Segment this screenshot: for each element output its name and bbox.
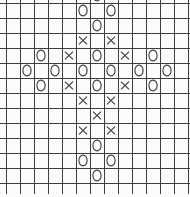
symbol-o <box>160 63 174 78</box>
grid-line-vertical <box>62 0 63 194</box>
symbol-x <box>118 78 132 93</box>
symbol-o <box>34 78 48 93</box>
symbol-o <box>90 168 104 183</box>
grid-line-horizontal <box>0 123 190 124</box>
grid-line-vertical <box>188 0 189 194</box>
symbol-x <box>104 33 118 48</box>
symbol-o <box>132 63 146 78</box>
symbol-o <box>146 78 160 93</box>
symbol-x <box>76 93 90 108</box>
symbol-o <box>20 63 34 78</box>
pattern-grid <box>0 0 190 197</box>
grid-line-horizontal <box>0 183 190 184</box>
symbol-o <box>90 18 104 33</box>
grid-line-horizontal <box>0 93 190 94</box>
symbol-o <box>90 48 104 63</box>
symbol-x <box>62 78 76 93</box>
grid-line-vertical <box>34 0 35 194</box>
symbol-o <box>90 78 104 93</box>
symbol-o <box>34 48 48 63</box>
symbol-o <box>90 0 104 3</box>
symbol-o <box>76 153 90 168</box>
symbol-x <box>62 48 76 63</box>
symbol-o <box>76 3 90 18</box>
symbol-x <box>104 93 118 108</box>
grid-line-vertical <box>20 0 21 194</box>
symbol-o <box>146 48 160 63</box>
symbol-x <box>104 123 118 138</box>
grid-line-vertical <box>132 0 133 194</box>
symbol-o <box>90 138 104 153</box>
grid-line-horizontal <box>0 3 190 4</box>
grid-line-horizontal <box>0 153 190 154</box>
symbol-x <box>118 48 132 63</box>
grid-line-horizontal <box>0 33 190 34</box>
symbol-o <box>76 63 90 78</box>
grid-line-vertical <box>160 0 161 194</box>
grid-line-vertical <box>118 0 119 194</box>
symbol-x <box>90 108 104 123</box>
grid-line-vertical <box>6 0 7 194</box>
symbol-x <box>76 123 90 138</box>
grid-line-vertical <box>174 0 175 194</box>
symbol-o <box>48 63 62 78</box>
grid-line-vertical <box>48 0 49 194</box>
grid-line-vertical <box>146 0 147 194</box>
symbol-o <box>104 63 118 78</box>
symbol-x <box>76 33 90 48</box>
symbol-o <box>104 3 118 18</box>
symbol-o <box>104 153 118 168</box>
